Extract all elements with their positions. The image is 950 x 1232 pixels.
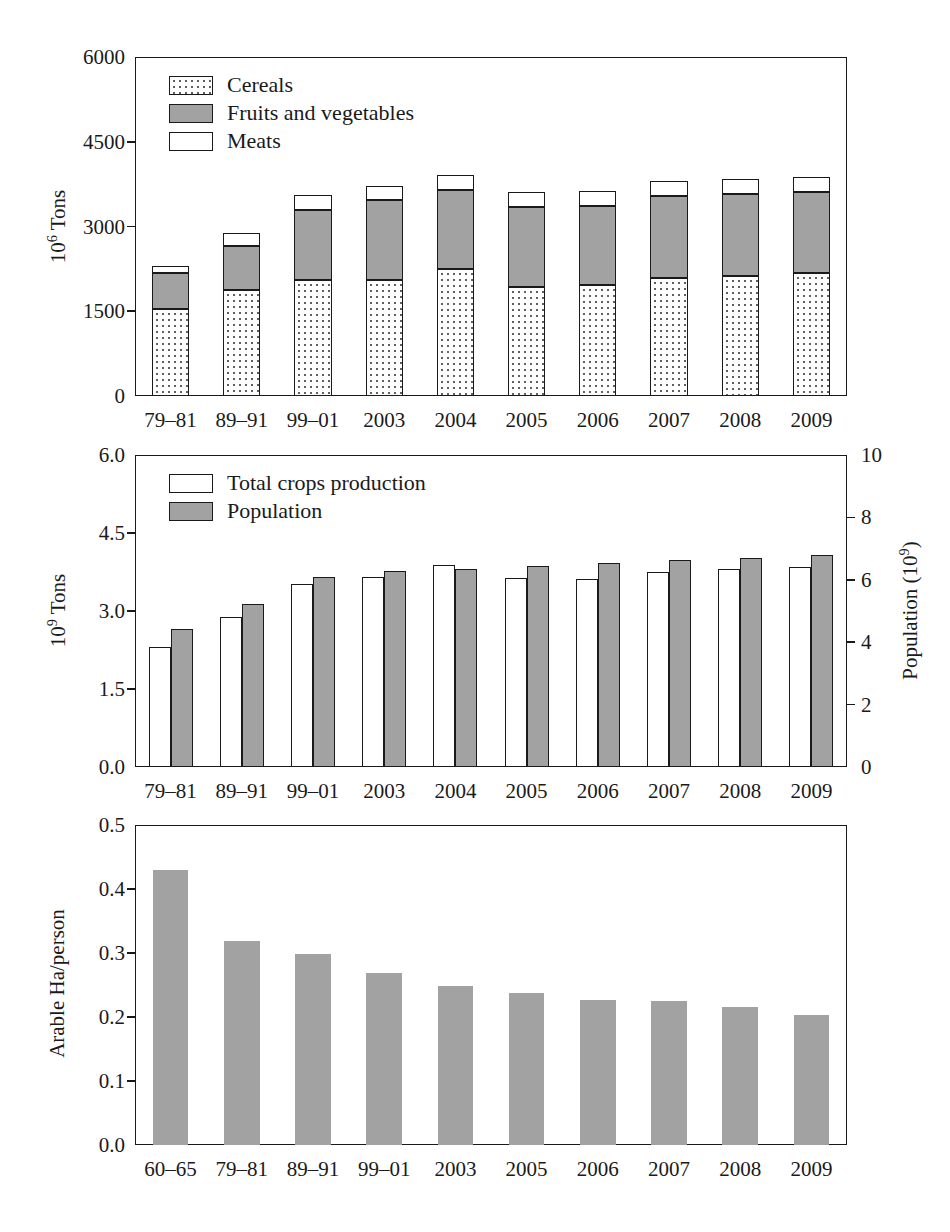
stacked-bar	[650, 0, 687, 430]
y-tick-mark	[127, 888, 136, 890]
bar-total-crops-production	[576, 579, 598, 767]
bar-segment-fruits-and-vegetables	[793, 192, 830, 273]
legend-label: Population	[227, 500, 322, 522]
bar-total-crops-production	[433, 565, 455, 767]
y-tick-mark	[127, 1016, 136, 1018]
legend-row: Fruits and vegetables	[169, 99, 414, 127]
bar-arable-ha-per-person	[295, 954, 331, 1145]
stacked-bar	[294, 0, 331, 430]
bar-segment-cereals	[508, 287, 545, 396]
legend-swatch-gray	[169, 104, 213, 123]
panel-c-y-axis-label: Arable Ha/person	[45, 824, 70, 1144]
panel-a-y-axis-label: 106 Tons	[44, 57, 71, 396]
legend-swatch-white	[169, 132, 213, 151]
x-tick-label: 2007	[648, 1159, 690, 1180]
bar-segment-meats	[294, 195, 331, 210]
bar-arable-ha-per-person	[153, 870, 189, 1145]
panel-a-legend: CerealsFruits and vegetablesMeats	[169, 71, 414, 155]
bar-arable-ha-per-person	[509, 993, 545, 1145]
bar-population	[171, 629, 193, 767]
bar-population	[527, 566, 549, 767]
y-tick-label-right: 2	[861, 694, 872, 715]
bar-segment-meats	[223, 233, 260, 246]
panel-b-y-axis-label-right: Population (109)	[896, 455, 923, 767]
bar-population	[455, 569, 477, 767]
bar-population	[384, 571, 406, 767]
stacked-bar	[508, 0, 545, 430]
bar-segment-fruits-and-vegetables	[650, 196, 687, 278]
bar-segment-cereals	[152, 309, 189, 396]
legend-swatch-white	[169, 474, 213, 493]
x-tick-label: 2003	[434, 1159, 476, 1180]
bar-population	[313, 577, 335, 767]
bar-segment-meats	[579, 191, 616, 206]
x-tick-label: 60–65	[144, 1159, 197, 1180]
bar-segment-cereals	[650, 278, 687, 396]
y-tick-mark	[127, 952, 136, 954]
bar-population	[242, 604, 264, 767]
panel-b-y-axis-label: 109 Tons	[44, 455, 71, 767]
legend-row: Meats	[169, 127, 414, 155]
bar-arable-ha-per-person	[722, 1007, 758, 1145]
bar-total-crops-production	[149, 647, 171, 767]
bar-segment-fruits-and-vegetables	[437, 190, 474, 269]
bar-segment-meats	[366, 186, 403, 200]
legend-label: Cereals	[227, 74, 293, 96]
y-tick-mark-right	[846, 704, 855, 706]
bar-segment-meats	[508, 192, 545, 207]
bar-total-crops-production	[718, 569, 740, 767]
stacked-bar	[793, 0, 830, 430]
bar-segment-meats	[722, 179, 759, 194]
legend-row: Population	[169, 497, 426, 525]
y-tick-label-right: 0	[861, 757, 872, 778]
panel-a-crop-production-by-type: 0150030004500600079–8189–9199–0120032004…	[0, 0, 950, 430]
bar-segment-cereals	[437, 269, 474, 396]
panel-b-production-vs-population: 0.01.53.04.56.0024681079–8189–9199–01200…	[0, 430, 950, 790]
bar-segment-cereals	[223, 290, 260, 396]
x-tick-label: 99–01	[358, 1159, 411, 1180]
bar-segment-meats	[152, 266, 189, 273]
bar-arable-ha-per-person	[224, 941, 260, 1145]
legend-swatch-gray	[169, 502, 213, 521]
bar-segment-fruits-and-vegetables	[152, 273, 189, 309]
x-tick-label: 2005	[506, 1159, 548, 1180]
bar-arable-ha-per-person	[794, 1015, 830, 1145]
stacked-bar	[366, 0, 403, 430]
legend-label: Total crops production	[227, 472, 426, 494]
bar-total-crops-production	[291, 584, 313, 767]
bar-segment-cereals	[722, 276, 759, 396]
x-tick-label: 2008	[719, 1159, 761, 1180]
bar-arable-ha-per-person	[438, 986, 474, 1145]
y-tick-mark-right	[846, 579, 855, 581]
bar-population	[811, 555, 833, 767]
y-tick-mark	[127, 141, 136, 143]
bar-segment-fruits-and-vegetables	[366, 200, 403, 280]
bar-segment-fruits-and-vegetables	[722, 194, 759, 275]
y-tick-mark-right	[846, 641, 855, 643]
bar-segment-cereals	[579, 285, 616, 396]
bar-segment-cereals	[366, 280, 403, 396]
x-tick-label: 2006	[577, 1159, 619, 1180]
legend-swatch-dotted	[169, 76, 213, 95]
x-tick-label: 79–81	[216, 1159, 269, 1180]
x-tick-label: 2009	[790, 1159, 832, 1180]
y-tick-label-right: 10	[861, 445, 882, 466]
bar-segment-meats	[437, 175, 474, 190]
bar-total-crops-production	[647, 572, 669, 767]
bar-population	[740, 558, 762, 767]
legend-row: Total crops production	[169, 469, 426, 497]
y-tick-mark-right	[846, 517, 855, 519]
y-tick-mark	[127, 226, 136, 228]
stacked-bar	[152, 0, 189, 430]
legend-row: Cereals	[169, 71, 414, 99]
stacked-bar	[579, 0, 616, 430]
bar-segment-fruits-and-vegetables	[579, 206, 616, 285]
bar-segment-fruits-and-vegetables	[223, 246, 260, 290]
bar-total-crops-production	[362, 577, 384, 767]
stacked-bar	[722, 0, 759, 430]
panel-c-arable-land-per-person: 0.00.10.20.30.40.560–6579–8189–9199–0120…	[0, 790, 950, 1190]
bar-total-crops-production	[220, 617, 242, 767]
bar-segment-meats	[793, 177, 830, 192]
legend-label: Fruits and vegetables	[227, 102, 414, 124]
bar-population	[598, 563, 620, 767]
